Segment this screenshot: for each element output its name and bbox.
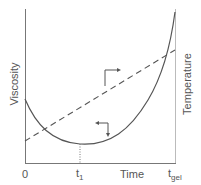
x-tick-t1: t1 bbox=[76, 167, 84, 182]
arrow-left-icon bbox=[95, 121, 110, 137]
viscosity-curve bbox=[25, 12, 175, 144]
y-axis-left-label: Viscosity bbox=[8, 54, 20, 114]
chart-canvas bbox=[0, 0, 201, 185]
x-tick-tgel-sub: gel bbox=[171, 173, 182, 182]
x-tick-tgel: tgel bbox=[168, 167, 182, 182]
x-axis-label: Time bbox=[120, 168, 144, 180]
temperature-line bbox=[25, 50, 175, 141]
x-tick-t1-sub: 1 bbox=[79, 173, 83, 182]
x-tick-0: 0 bbox=[22, 168, 28, 180]
arrow-right-icon bbox=[105, 68, 121, 86]
y-axis-right-label: Temperature bbox=[181, 48, 193, 120]
